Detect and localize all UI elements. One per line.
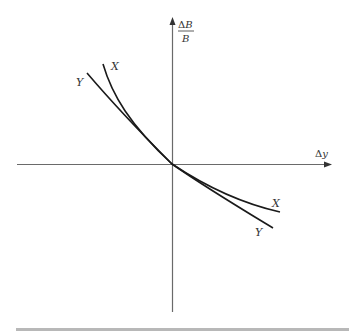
curve-y-label-top: Y xyxy=(76,76,85,89)
curve-y-label-bottom: Y xyxy=(255,226,264,239)
curve-x-label-bottom: X xyxy=(271,197,281,210)
curve-y: Y Y xyxy=(76,73,273,239)
x-axis: Δy xyxy=(17,148,332,168)
x-axis-label: Δy xyxy=(315,148,328,159)
bottom-divider xyxy=(16,328,349,331)
x-axis-arrow-icon xyxy=(324,162,332,168)
curve-x-label-top: X xyxy=(110,60,120,73)
diagram-figure: Δy ΔB B X X Y Y xyxy=(0,0,349,333)
svg-text:ΔB: ΔB xyxy=(178,19,193,30)
y-axis-arrow-icon xyxy=(170,17,176,25)
curve-x: X X xyxy=(103,60,281,212)
y-axis-label: ΔB B xyxy=(178,19,194,44)
svg-text:B: B xyxy=(181,33,189,44)
